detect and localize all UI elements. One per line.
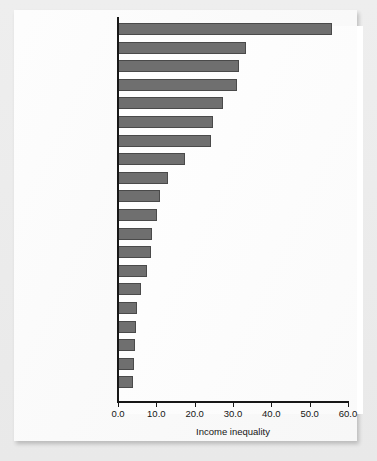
x-tick	[271, 403, 272, 407]
x-tick-label: 60.0	[328, 408, 368, 419]
x-tick	[348, 403, 349, 407]
x-tick-label: 0.0	[98, 408, 138, 419]
bar	[118, 79, 237, 91]
bar	[118, 172, 168, 184]
bar	[118, 42, 246, 54]
x-tick-label: 30.0	[213, 408, 253, 419]
bar	[118, 376, 133, 388]
x-tick	[118, 403, 119, 407]
bar	[118, 97, 223, 109]
bar	[118, 339, 135, 351]
x-tick	[156, 403, 157, 407]
x-tick	[233, 403, 234, 407]
bar	[118, 246, 151, 258]
x-tick	[310, 403, 311, 407]
bar	[118, 23, 332, 35]
bar	[118, 116, 213, 128]
bar	[118, 358, 134, 370]
bar	[118, 209, 157, 221]
bar	[118, 153, 185, 165]
x-tick	[195, 403, 196, 407]
x-tick-label: 10.0	[136, 408, 176, 419]
page-background: NamibiaSouth AfricaBotswanaBrazilParagua…	[0, 0, 377, 461]
x-axis-title: Income inequality	[117, 426, 349, 437]
bar	[118, 60, 239, 72]
bar	[118, 321, 136, 333]
bar	[118, 135, 211, 147]
bar	[118, 283, 141, 295]
x-tick-label: 40.0	[251, 408, 291, 419]
x-tick-label: 50.0	[290, 408, 330, 419]
y-axis-line	[117, 17, 119, 402]
bar-chart: NamibiaSouth AfricaBotswanaBrazilParagua…	[0, 0, 377, 461]
bar	[118, 265, 147, 277]
bar	[118, 190, 160, 202]
bar	[118, 228, 152, 240]
x-tick-label: 20.0	[175, 408, 215, 419]
bar	[118, 302, 137, 314]
